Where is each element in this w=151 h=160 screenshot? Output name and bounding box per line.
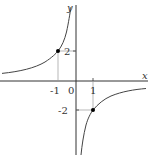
y-axis-label: y bbox=[66, 2, 73, 13]
point-1-neg2 bbox=[91, 108, 95, 112]
curve-right-branch bbox=[81, 89, 146, 156]
tick-label-y-neg2: -2 bbox=[58, 105, 68, 116]
x-axis-label: x bbox=[142, 70, 148, 81]
tick-label-x-1: 1 bbox=[90, 85, 96, 96]
curve-left-branch bbox=[2, 7, 71, 73]
origin-label: 0 bbox=[68, 85, 74, 96]
tick-label-x-neg1: -1 bbox=[50, 85, 60, 96]
hyperbola-graph: y x 0 -1 1 2 -2 bbox=[0, 0, 151, 160]
point-neg1-2 bbox=[56, 49, 60, 53]
tick-label-y-2: 2 bbox=[64, 46, 70, 57]
